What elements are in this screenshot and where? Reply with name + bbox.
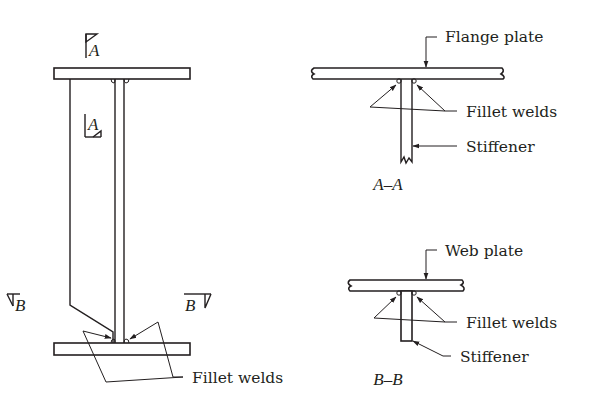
svg-text:A: A [87,115,99,134]
web-plate-section [348,280,464,291]
section-aa-caption: A–A [372,175,403,194]
fillet-welds-leader-bb [374,297,457,322]
flange-plate-leader [426,37,437,67]
section-marker-b-right: B [184,294,211,315]
bottom-flange [54,343,190,355]
section-aa: Flange plate Fillet welds Stiffener A–A [312,28,558,194]
fillet-welds-label-bb: Fillet welds [466,314,557,332]
fillet-welds-label-elevation: Fillet welds [192,369,283,387]
section-marker-b-left: B [7,294,26,315]
flange-plate-label: Flange plate [445,28,543,46]
svg-text:B: B [15,296,26,315]
stiffener-section-aa [401,79,412,163]
stiffener-diagram: A A B B Fillet welds [0,0,590,411]
stiffener-label-aa: Stiffener [466,138,535,156]
stiffener-label-bb: Stiffener [460,348,529,366]
svg-text:A: A [88,41,100,60]
web-plate-label: Web plate [445,242,523,260]
elevation-view: A A B B Fillet welds [7,34,283,387]
section-marker-a-top: A [86,34,100,60]
flange-plate-section [312,68,505,79]
svg-text:B: B [185,296,196,315]
fillet-welds-label-aa: Fillet welds [466,103,557,121]
stiffener-section-bb [401,291,412,341]
stiffener-leader-bb [413,341,451,356]
section-bb-caption: B–B [373,370,403,389]
top-flange [54,68,190,79]
web-plate-leader [426,250,437,279]
fillet-welds-leader-aa [370,85,457,111]
section-bb: Web plate Fillet welds Stiffener B–B [348,242,557,389]
section-marker-a-mid: A [85,114,101,137]
